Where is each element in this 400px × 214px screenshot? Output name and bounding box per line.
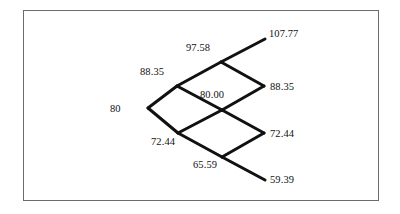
tree-edge xyxy=(222,86,264,110)
node-value-label: 72.44 xyxy=(151,137,175,148)
tree-edge xyxy=(177,62,221,86)
tree-edge xyxy=(221,39,265,62)
tree-edge xyxy=(222,133,264,157)
node-value-label: 59.39 xyxy=(270,175,294,186)
node-value-label: 80 xyxy=(110,104,121,115)
tree-edge xyxy=(222,157,265,180)
node-value-label: 88.35 xyxy=(270,82,294,93)
node-value-label: 88.35 xyxy=(140,67,164,78)
tree-edge xyxy=(221,62,264,86)
tree-edge xyxy=(178,133,222,157)
figure-canvas: 8088.3572.4497.5880.0065.59107.7788.3572… xyxy=(0,0,400,214)
tree-edge xyxy=(178,110,222,133)
tree-edge xyxy=(222,110,264,133)
tree-edge xyxy=(148,108,178,133)
node-value-label: 65.59 xyxy=(193,160,217,171)
node-value-label: 72.44 xyxy=(270,129,294,140)
binomial-tree-graphic xyxy=(0,0,400,214)
tree-edge xyxy=(148,86,177,108)
node-value-label: 80.00 xyxy=(200,90,224,101)
node-value-label: 107.77 xyxy=(269,29,298,40)
node-value-label: 97.58 xyxy=(186,43,210,54)
